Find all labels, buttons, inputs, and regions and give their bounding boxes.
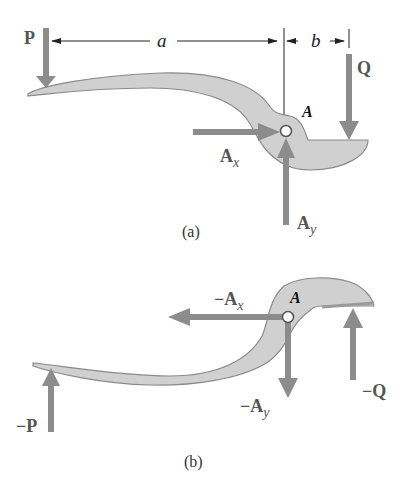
part-b: −P −Q −Ax −Ay A (b) bbox=[16, 278, 386, 471]
dimension-a-label: a bbox=[157, 30, 167, 51]
force-negQ-arrow bbox=[343, 308, 363, 380]
pin-A-b bbox=[283, 312, 294, 323]
pin-A-a bbox=[281, 126, 292, 137]
force-Q-label: Q bbox=[357, 58, 371, 78]
force-Ay-label: Ay bbox=[297, 213, 317, 237]
plier-member-b bbox=[33, 278, 374, 385]
force-negQ-label: −Q bbox=[362, 381, 386, 401]
force-P-arrow bbox=[36, 28, 56, 88]
force-negAy-label: −Ay bbox=[240, 396, 270, 420]
part-a: a b P Q Ax bbox=[24, 28, 371, 241]
pin-A-label-a: A bbox=[301, 103, 313, 120]
dimension-a: a bbox=[47, 30, 277, 51]
pin-A-label-b: A bbox=[289, 289, 301, 306]
dimension-b: b bbox=[284, 28, 349, 120]
force-negP-arrow bbox=[42, 368, 60, 432]
force-negAx-label: −Ax bbox=[214, 289, 244, 313]
force-negP-label: −P bbox=[16, 416, 37, 436]
plier-member-a bbox=[28, 73, 368, 170]
free-body-diagram: a b P Q Ax bbox=[0, 0, 412, 488]
dimension-b-label: b bbox=[311, 30, 321, 51]
caption-b: (b) bbox=[184, 453, 203, 471]
force-Q-arrow bbox=[339, 54, 359, 140]
force-Ax-label: Ax bbox=[220, 146, 240, 170]
caption-a: (a) bbox=[182, 223, 200, 241]
force-P-label: P bbox=[24, 28, 35, 48]
